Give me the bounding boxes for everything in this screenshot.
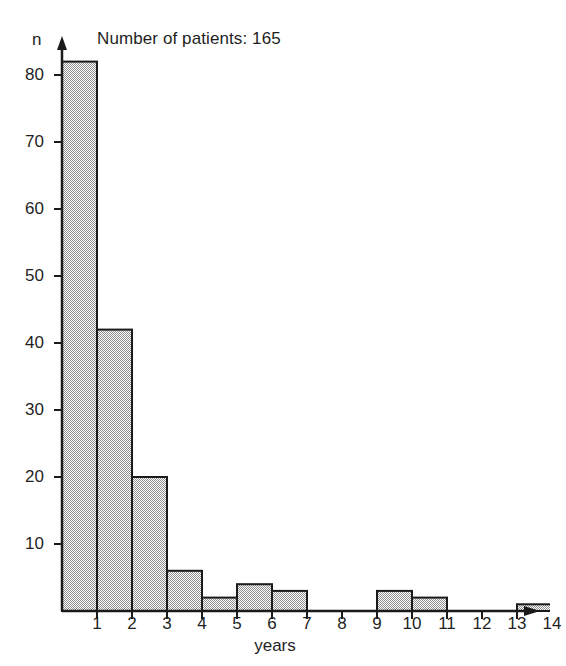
bar — [377, 591, 412, 611]
x-axis-tick-label: 8 — [325, 614, 359, 634]
y-axis-tick-label: 30 — [4, 400, 44, 420]
y-axis-tick-label: 20 — [4, 467, 44, 487]
x-axis-tick-label: 3 — [150, 614, 184, 634]
x-axis-tick-label: 7 — [290, 614, 324, 634]
bar — [132, 477, 167, 611]
x-axis-tick-label: 6 — [255, 614, 289, 634]
y-axis-tick-label: 70 — [4, 132, 44, 152]
x-axis-tick-label: 4 — [185, 614, 219, 634]
bar — [62, 62, 97, 611]
x-axis-tick-label: 9 — [360, 614, 394, 634]
y-axis-tick-label: 50 — [4, 266, 44, 286]
x-axis-tick-label: 10 — [395, 614, 429, 634]
x-axis-tick-label: 13 — [500, 614, 534, 634]
bars-group — [62, 62, 550, 611]
y-axis-tick-label: 60 — [4, 199, 44, 219]
y-axis-tick-label: 80 — [4, 65, 44, 85]
y-axis-arrow-icon — [57, 36, 67, 50]
bar — [272, 591, 307, 611]
bar — [167, 571, 202, 611]
x-axis-tick-label: 5 — [220, 614, 254, 634]
x-axis-tick-label: 11 — [430, 614, 464, 634]
bar — [237, 584, 272, 611]
x-axis-tick-label: 1 — [80, 614, 114, 634]
bar — [412, 598, 447, 611]
x-axis-tick-label: 12 — [465, 614, 499, 634]
y-axis-tick-label: 40 — [4, 333, 44, 353]
bar — [97, 330, 132, 611]
x-axis-tick-label: 14 — [535, 614, 566, 634]
y-axis-tick-label: 10 — [4, 534, 44, 554]
bar — [202, 598, 237, 611]
x-axis-tick-label: 2 — [115, 614, 149, 634]
